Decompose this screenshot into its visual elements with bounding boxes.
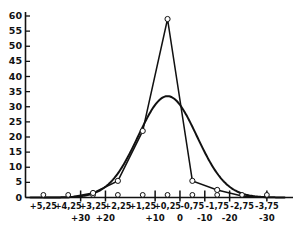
x-axis-primary-label: -3,75 xyxy=(255,201,279,211)
x-axis-primary-label: -1,75 xyxy=(205,201,229,211)
data-point-marker xyxy=(140,128,145,133)
x-axis-secondary-label: -20 xyxy=(222,213,238,223)
x-axis-secondary-label: -10 xyxy=(197,213,213,223)
x-axis-primary-label: +2,25 xyxy=(104,201,131,211)
x-axis-secondary-label: +10 xyxy=(146,213,165,223)
y-axis-tick-label: 20 xyxy=(9,131,23,142)
data-point-marker xyxy=(115,178,120,183)
x-axis-primary-label: -2,75 xyxy=(230,201,254,211)
data-point-marker xyxy=(165,16,170,21)
x-axis-secondary-label: +30 xyxy=(71,213,90,223)
y-axis-tick-label: 5 xyxy=(15,176,22,187)
data-point-marker xyxy=(90,190,95,195)
axis-point-marker xyxy=(115,193,120,198)
x-axis-primary-labels: +5,25+4,25+3,25+2,25+1,25+0,25-0,75-1,75… xyxy=(30,201,279,211)
y-axis-tick-labels: 051015202530354045505560 xyxy=(9,10,23,203)
axis-point-marker xyxy=(190,193,195,198)
x-axis-primary-label: +1,25 xyxy=(129,201,156,211)
x-axis-primary-label: +5,25 xyxy=(30,201,57,211)
axis-point-marker xyxy=(165,193,170,198)
chart-container: 051015202530354045505560 +5,25+4,25+3,25… xyxy=(0,0,296,233)
chart-svg: 051015202530354045505560 +5,25+4,25+3,25… xyxy=(0,0,296,233)
data-point-marker xyxy=(190,178,195,183)
axis-point-marker xyxy=(240,193,245,198)
y-axis-tick-label: 0 xyxy=(15,192,22,203)
axis-point-marker xyxy=(41,193,46,198)
y-axis-tick-label: 10 xyxy=(9,161,23,172)
theoretical-gaussian-curve xyxy=(30,96,284,197)
empirical-polygon-line xyxy=(43,19,266,197)
x-axis-secondary-label: -30 xyxy=(259,213,275,223)
x-axis-secondary-labels: +30+20+100-10-20-30 xyxy=(71,213,275,223)
y-axis-tick-label: 50 xyxy=(9,40,23,51)
y-axis-tick-label: 30 xyxy=(9,101,23,112)
y-axis-tick-label: 40 xyxy=(9,71,23,82)
y-axis-tick-label: 60 xyxy=(9,10,23,21)
data-point-markers xyxy=(41,16,269,197)
x-axis-primary-label: +4,25 xyxy=(55,201,82,211)
x-axis-secondary-label: 0 xyxy=(177,213,183,223)
x-axis-primary-label: +3,25 xyxy=(80,201,107,211)
y-axis-tick-label: 55 xyxy=(9,25,22,36)
y-axis-tick-label: 35 xyxy=(9,86,22,97)
axis-point-marker xyxy=(215,193,220,198)
x-axis-secondary-label: +20 xyxy=(96,213,115,223)
x-axis-primary-label: -0,75 xyxy=(181,201,205,211)
axis-point-marker xyxy=(264,193,269,198)
y-axis-tick-label: 25 xyxy=(9,116,22,127)
x-axis-primary-label: +0,25 xyxy=(154,201,181,211)
axis-point-marker xyxy=(140,193,145,198)
data-point-marker xyxy=(215,187,220,192)
y-axis-tick-label: 15 xyxy=(9,146,22,157)
axis-point-marker xyxy=(66,193,71,198)
y-axis-tick-label: 45 xyxy=(9,55,22,66)
